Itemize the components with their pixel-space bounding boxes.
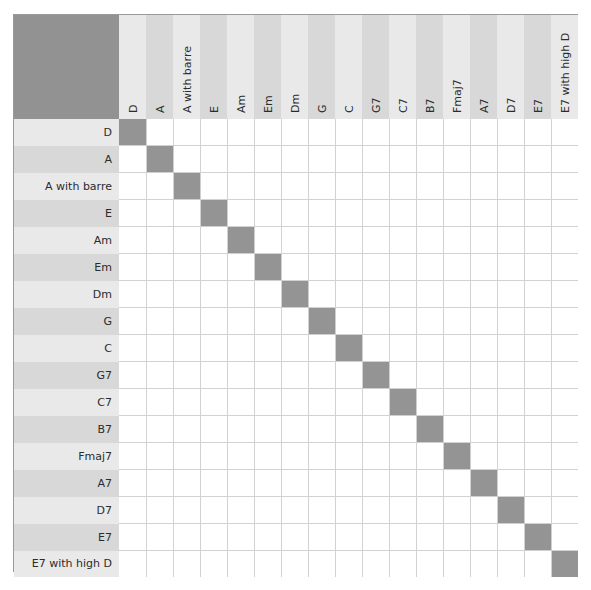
matrix-cell[interactable]	[497, 173, 524, 200]
matrix-cell[interactable]	[335, 281, 362, 308]
matrix-cell[interactable]	[119, 389, 146, 416]
matrix-cell[interactable]	[443, 551, 470, 578]
matrix-cell[interactable]	[308, 227, 335, 254]
matrix-cell[interactable]	[497, 281, 524, 308]
matrix-cell[interactable]	[281, 551, 308, 578]
matrix-cell[interactable]	[227, 524, 254, 551]
matrix-cell[interactable]	[200, 281, 227, 308]
row-header[interactable]: E	[14, 200, 119, 227]
matrix-cell[interactable]	[470, 389, 497, 416]
matrix-cell[interactable]	[524, 146, 551, 173]
matrix-diagonal-cell[interactable]	[308, 308, 335, 335]
matrix-cell[interactable]	[443, 146, 470, 173]
matrix-cell[interactable]	[497, 443, 524, 470]
matrix-cell[interactable]	[173, 470, 200, 497]
matrix-cell[interactable]	[416, 146, 443, 173]
matrix-cell[interactable]	[470, 443, 497, 470]
matrix-cell[interactable]	[524, 119, 551, 146]
matrix-cell[interactable]	[227, 119, 254, 146]
matrix-cell[interactable]	[308, 443, 335, 470]
matrix-cell[interactable]	[146, 497, 173, 524]
matrix-cell[interactable]	[551, 362, 578, 389]
matrix-cell[interactable]	[524, 470, 551, 497]
matrix-cell[interactable]	[308, 524, 335, 551]
matrix-cell[interactable]	[362, 254, 389, 281]
matrix-cell[interactable]	[200, 551, 227, 578]
matrix-cell[interactable]	[173, 443, 200, 470]
matrix-cell[interactable]	[308, 200, 335, 227]
matrix-diagonal-cell[interactable]	[200, 200, 227, 227]
matrix-diagonal-cell[interactable]	[524, 524, 551, 551]
matrix-cell[interactable]	[335, 497, 362, 524]
matrix-diagonal-cell[interactable]	[497, 497, 524, 524]
matrix-cell[interactable]	[254, 362, 281, 389]
row-header[interactable]: Em	[14, 254, 119, 281]
row-header[interactable]: A with barre	[14, 173, 119, 200]
matrix-cell[interactable]	[335, 308, 362, 335]
matrix-cell[interactable]	[281, 335, 308, 362]
matrix-cell[interactable]	[119, 308, 146, 335]
matrix-cell[interactable]	[227, 146, 254, 173]
matrix-diagonal-cell[interactable]	[281, 281, 308, 308]
matrix-cell[interactable]	[254, 551, 281, 578]
matrix-cell[interactable]	[389, 173, 416, 200]
matrix-cell[interactable]	[281, 470, 308, 497]
matrix-cell[interactable]	[470, 362, 497, 389]
matrix-cell[interactable]	[335, 146, 362, 173]
matrix-diagonal-cell[interactable]	[389, 389, 416, 416]
matrix-cell[interactable]	[551, 173, 578, 200]
matrix-cell[interactable]	[254, 497, 281, 524]
matrix-cell[interactable]	[173, 497, 200, 524]
matrix-cell[interactable]	[254, 200, 281, 227]
row-header[interactable]: Dm	[14, 281, 119, 308]
matrix-cell[interactable]	[119, 254, 146, 281]
column-header[interactable]: A	[146, 15, 173, 119]
matrix-diagonal-cell[interactable]	[146, 146, 173, 173]
column-header[interactable]: Dm	[281, 15, 308, 119]
matrix-cell[interactable]	[200, 416, 227, 443]
matrix-cell[interactable]	[200, 524, 227, 551]
matrix-cell[interactable]	[119, 497, 146, 524]
matrix-cell[interactable]	[254, 470, 281, 497]
matrix-cell[interactable]	[119, 443, 146, 470]
matrix-cell[interactable]	[281, 254, 308, 281]
column-header[interactable]: Em	[254, 15, 281, 119]
matrix-cell[interactable]	[146, 389, 173, 416]
matrix-cell[interactable]	[173, 362, 200, 389]
matrix-cell[interactable]	[362, 524, 389, 551]
matrix-cell[interactable]	[119, 524, 146, 551]
matrix-cell[interactable]	[497, 524, 524, 551]
matrix-cell[interactable]	[443, 227, 470, 254]
matrix-cell[interactable]	[308, 173, 335, 200]
matrix-cell[interactable]	[416, 254, 443, 281]
matrix-cell[interactable]	[254, 416, 281, 443]
column-header[interactable]: Am	[227, 15, 254, 119]
row-header[interactable]: E7 with high D	[14, 551, 119, 578]
matrix-cell[interactable]	[470, 200, 497, 227]
column-header[interactable]: G7	[362, 15, 389, 119]
matrix-cell[interactable]	[335, 119, 362, 146]
matrix-cell[interactable]	[443, 308, 470, 335]
matrix-cell[interactable]	[524, 443, 551, 470]
matrix-cell[interactable]	[443, 389, 470, 416]
matrix-cell[interactable]	[281, 119, 308, 146]
matrix-cell[interactable]	[173, 389, 200, 416]
matrix-cell[interactable]	[227, 416, 254, 443]
matrix-cell[interactable]	[470, 281, 497, 308]
matrix-cell[interactable]	[227, 254, 254, 281]
matrix-cell[interactable]	[308, 416, 335, 443]
matrix-cell[interactable]	[443, 200, 470, 227]
matrix-cell[interactable]	[389, 524, 416, 551]
matrix-cell[interactable]	[362, 281, 389, 308]
matrix-cell[interactable]	[308, 389, 335, 416]
matrix-cell[interactable]	[281, 524, 308, 551]
matrix-cell[interactable]	[254, 524, 281, 551]
matrix-cell[interactable]	[497, 308, 524, 335]
matrix-cell[interactable]	[227, 173, 254, 200]
matrix-cell[interactable]	[470, 416, 497, 443]
matrix-cell[interactable]	[443, 470, 470, 497]
matrix-cell[interactable]	[524, 254, 551, 281]
matrix-cell[interactable]	[335, 362, 362, 389]
matrix-cell[interactable]	[551, 524, 578, 551]
matrix-diagonal-cell[interactable]	[443, 443, 470, 470]
